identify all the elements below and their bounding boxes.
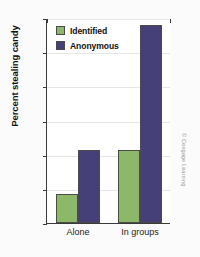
y-axis-title: Percent stealing candy	[9, 11, 25, 141]
y-axis-tick-mark	[43, 53, 47, 54]
bar-identified-alone	[56, 194, 78, 223]
legend-label: Identified	[70, 26, 107, 36]
gridline	[47, 19, 170, 20]
y-axis-tick-mark	[43, 156, 47, 157]
legend-swatch-icon	[56, 41, 65, 50]
y-axis-tick-mark	[43, 224, 47, 225]
y-axis-tick-mark	[43, 190, 47, 191]
x-axis-tick-mark	[170, 19, 171, 23]
bar-identified-in-groups	[118, 150, 140, 223]
legend-swatch-icon	[56, 26, 65, 35]
x-axis-tick-mark	[47, 19, 48, 23]
bar-anonymous-alone	[78, 150, 100, 223]
legend-item-anonymous: Anonymous	[56, 39, 119, 52]
y-axis-tick-mark	[43, 87, 47, 88]
corner-mark-icon	[181, 250, 197, 255]
x-axis-tick-label: In groups	[100, 227, 180, 237]
legend-label: Anonymous	[70, 41, 119, 51]
bar-anonymous-in-groups	[140, 25, 162, 223]
chart-legend: IdentifiedAnonymous	[56, 24, 119, 54]
bar-chart-figure: Percent stealing candy 0102030405060Alon…	[0, 0, 200, 257]
y-axis-tick-mark	[43, 122, 47, 123]
legend-item-identified: Identified	[56, 24, 119, 37]
copyright-credit: © Cengage Learning	[181, 133, 187, 213]
